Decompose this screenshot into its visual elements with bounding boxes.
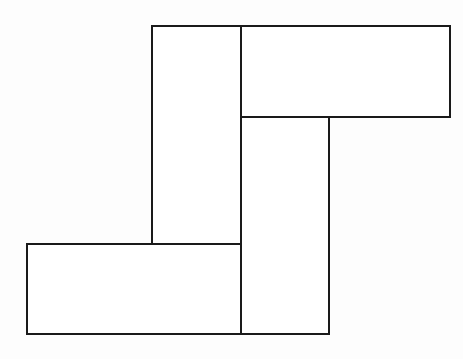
rectangle-lower-left-horizontal (27, 244, 241, 334)
rectangle-upper-left-vertical (152, 26, 241, 244)
pinwheel-rectangles-svg (0, 0, 463, 359)
rectangle-upper-right-horizontal (241, 26, 450, 117)
rectangle-lower-right-vertical (241, 117, 329, 334)
geometric-figure-canvas: Pinwheel arrangement of four congruent r… (0, 0, 463, 359)
